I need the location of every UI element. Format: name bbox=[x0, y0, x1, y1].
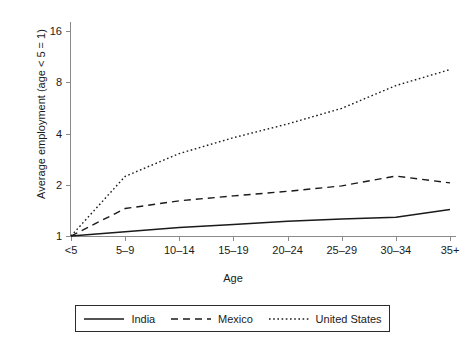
legend-key-solid bbox=[83, 314, 125, 324]
series-line-mexico bbox=[71, 176, 450, 236]
legend-label: Mexico bbox=[218, 313, 253, 325]
legend-key-dotted bbox=[268, 314, 310, 324]
series-line-india bbox=[71, 210, 450, 236]
chart-plot-area bbox=[0, 0, 466, 350]
chart-figure: Average employment (age < 5 = 1) 124816 … bbox=[0, 0, 466, 350]
legend-label: India bbox=[131, 313, 155, 325]
x-axis-label: Age bbox=[0, 272, 466, 284]
legend-item-mexico[interactable]: Mexico bbox=[170, 313, 253, 325]
chart-legend: IndiaMexicoUnited States bbox=[75, 305, 390, 332]
legend-item-united-states[interactable]: United States bbox=[268, 313, 382, 325]
series-line-united-states bbox=[71, 70, 450, 236]
legend-label: United States bbox=[316, 313, 382, 325]
legend-key-dashed bbox=[170, 314, 212, 324]
legend-item-india[interactable]: India bbox=[83, 313, 155, 325]
